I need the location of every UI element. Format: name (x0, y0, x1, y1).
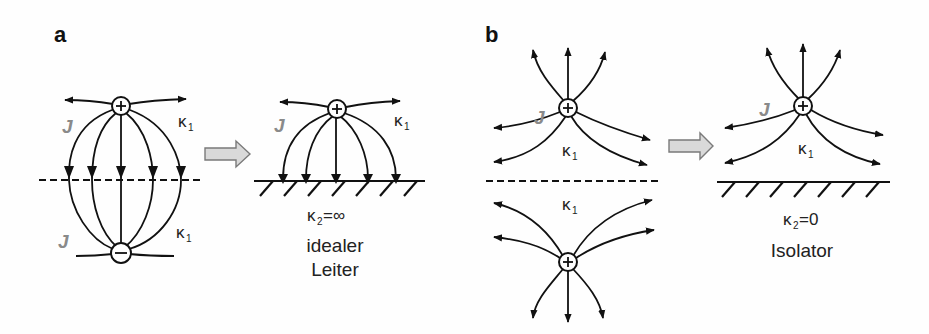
field-line (571, 116, 647, 165)
svg-text:1: 1 (808, 149, 814, 160)
current-density-label: J (274, 115, 285, 136)
svg-text:1: 1 (186, 233, 192, 244)
field-line (573, 200, 652, 256)
panel-a-dipole: J κ 1 J κ 1 (39, 97, 200, 263)
panel-b-insulator: J κ 1 κ 2 =0 Isolator (717, 44, 890, 261)
conductivity-label: κ (176, 223, 185, 242)
field-line (65, 100, 113, 104)
panel-a-ideal-conductor: J κ 1 κ 2 =∞ idealer Leiter (254, 100, 425, 280)
conductivity-label: κ (562, 141, 571, 160)
arrowhead (116, 166, 126, 179)
field-line (573, 269, 603, 318)
transition-arrow-icon (205, 141, 250, 167)
current-density-label: J (58, 231, 69, 252)
field-line (811, 110, 883, 135)
current-density-label: J (759, 99, 770, 120)
field-line-figure: a (0, 0, 929, 334)
boundary-value: =0 (799, 210, 818, 229)
field-line (494, 203, 563, 256)
panel-b: b J κ 1 (485, 22, 890, 322)
panel-label-a: a (54, 22, 67, 47)
field-line (494, 112, 560, 128)
svg-text:1: 1 (572, 205, 578, 216)
field-line (76, 254, 113, 256)
conductivity-label: κ (178, 112, 187, 131)
arrowhead (176, 166, 186, 179)
arrowhead (148, 166, 158, 179)
field-line (346, 101, 400, 107)
field-line (808, 50, 840, 99)
figure-canvas: a (0, 0, 929, 334)
boundary-value: =∞ (323, 206, 345, 225)
field-line (573, 52, 605, 101)
field-line (340, 116, 368, 179)
field-line (767, 48, 799, 99)
ground-hatching (722, 182, 879, 197)
current-density-label: J (534, 107, 545, 128)
transition-arrow-icon (669, 133, 713, 159)
field-line (533, 269, 563, 318)
panel-a: a (39, 22, 425, 280)
caption-line2: Leiter (311, 259, 359, 280)
arrowhead (64, 166, 74, 179)
conductivity-label: κ (562, 195, 571, 214)
panel-b-two-charges: J κ 1 κ 1 (486, 48, 660, 322)
current-density-label: J (62, 116, 73, 137)
panel-label-b: b (485, 22, 498, 47)
caption-line1: idealer (306, 235, 364, 256)
field-line (576, 230, 654, 258)
ground-hatching (260, 181, 417, 196)
arrowhead (87, 166, 97, 179)
field-line (129, 99, 186, 104)
conductivity-label: κ (394, 111, 403, 130)
field-line (129, 254, 174, 256)
boundary-conductivity-label: κ (783, 210, 792, 229)
field-line (344, 113, 396, 179)
field-line (533, 50, 564, 101)
svg-text:1: 1 (188, 122, 194, 133)
caption: Isolator (771, 240, 834, 261)
field-line (806, 114, 880, 164)
conductivity-label: κ (798, 139, 807, 158)
field-line (494, 116, 566, 162)
field-line (494, 237, 560, 258)
field-line (280, 102, 329, 107)
field-line (306, 116, 333, 179)
svg-text:1: 1 (404, 121, 410, 132)
boundary-conductivity-label: κ (307, 206, 316, 225)
svg-text:1: 1 (572, 151, 578, 162)
